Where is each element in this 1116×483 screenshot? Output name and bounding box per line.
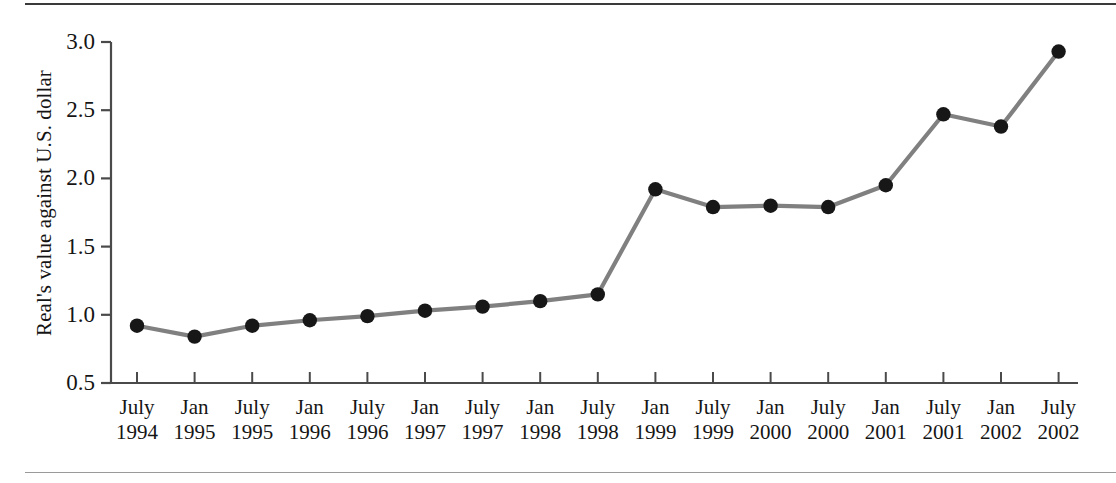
data-point xyxy=(187,329,201,343)
data-point xyxy=(360,309,374,323)
data-point xyxy=(475,299,489,313)
data-point xyxy=(1051,44,1065,58)
data-point xyxy=(303,313,317,327)
data-point xyxy=(245,319,259,333)
data-point xyxy=(821,200,835,214)
y-tick-label: 3.0 xyxy=(39,30,95,53)
y-tick-label: 2.5 xyxy=(39,98,95,121)
y-tick-label: 1.0 xyxy=(39,303,95,326)
axes xyxy=(101,42,1078,383)
x-tick-year: 2002 xyxy=(1014,420,1104,445)
data-point xyxy=(418,304,432,318)
data-point xyxy=(591,287,605,301)
y-tick-label: 1.5 xyxy=(39,235,95,258)
data-point xyxy=(879,178,893,192)
y-tick-label: 0.5 xyxy=(39,371,95,394)
x-tick-month: July xyxy=(1014,395,1104,420)
y-tick-label: 2.0 xyxy=(39,166,95,189)
data-point xyxy=(533,294,547,308)
data-point xyxy=(648,182,662,196)
data-point xyxy=(936,107,950,121)
x-tick-label: July2002 xyxy=(1014,395,1104,445)
data-point xyxy=(706,200,720,214)
data-point xyxy=(130,319,144,333)
data-markers xyxy=(130,44,1066,343)
data-point xyxy=(994,119,1008,133)
chart-page: Real's value against U.S. dollar 0.51.01… xyxy=(0,0,1116,483)
data-point xyxy=(763,198,777,212)
